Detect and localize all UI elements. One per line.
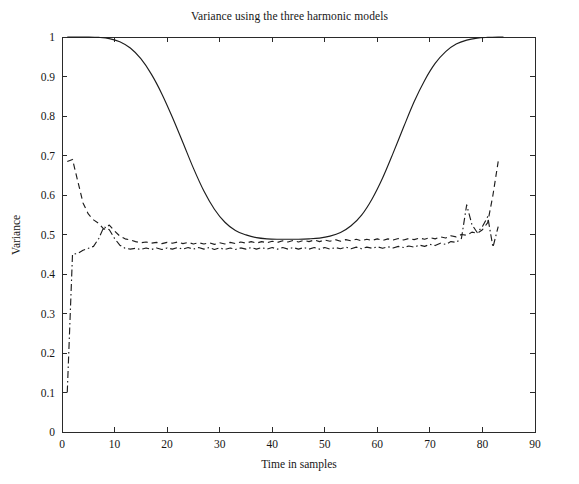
x-tick-label: 50 bbox=[319, 438, 331, 450]
x-tick-label: 40 bbox=[266, 438, 278, 450]
figure-canvas: Variance using the three harmonic models… bbox=[0, 0, 579, 484]
data-series-group bbox=[67, 37, 503, 393]
x-tick-label: 60 bbox=[372, 438, 384, 450]
x-tick-label: 30 bbox=[214, 438, 226, 450]
y-tick-label: 0.8 bbox=[41, 110, 56, 122]
series-dashdot-line bbox=[67, 205, 498, 393]
x-tick-label: 20 bbox=[161, 438, 173, 450]
y-axis-label: Variance bbox=[10, 215, 22, 255]
y-tick-label: 0.5 bbox=[41, 229, 56, 241]
series-dashed-line bbox=[67, 159, 498, 244]
y-tick-label: 0.7 bbox=[41, 150, 56, 162]
series-solid-line bbox=[67, 37, 503, 239]
axis-ticks-group: 010203040506070809000.10.20.30.40.50.60.… bbox=[41, 31, 541, 450]
y-tick-label: 0.6 bbox=[41, 189, 56, 201]
x-tick-label: 10 bbox=[109, 438, 121, 450]
x-tick-label: 90 bbox=[529, 438, 541, 450]
y-tick-label: 0.2 bbox=[41, 347, 56, 359]
y-tick-label: 0.1 bbox=[41, 387, 56, 399]
y-tick-label: 0.4 bbox=[41, 268, 56, 280]
y-tick-label: 0.3 bbox=[41, 308, 56, 320]
plot-area: 010203040506070809000.10.20.30.40.50.60.… bbox=[0, 0, 579, 484]
x-tick-label: 0 bbox=[59, 438, 65, 450]
x-tick-label: 70 bbox=[424, 438, 436, 450]
x-axis-label: Time in samples bbox=[261, 458, 337, 471]
y-tick-label: 1 bbox=[49, 31, 55, 43]
y-tick-label: 0 bbox=[49, 426, 55, 438]
y-tick-label: 0.9 bbox=[41, 71, 56, 83]
x-tick-label: 80 bbox=[477, 438, 489, 450]
